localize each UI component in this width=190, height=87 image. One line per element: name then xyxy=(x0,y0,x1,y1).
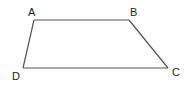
vertex-label-b: B xyxy=(130,6,137,18)
vertex-label-c: C xyxy=(172,66,180,78)
vertex-label-a: A xyxy=(28,6,36,18)
trapezoid-figure: A B C D xyxy=(0,0,190,87)
diagram-canvas: A B C D xyxy=(0,0,190,87)
vertex-label-d: D xyxy=(12,70,20,82)
edge-da xyxy=(23,20,34,68)
edge-bc xyxy=(129,20,168,68)
